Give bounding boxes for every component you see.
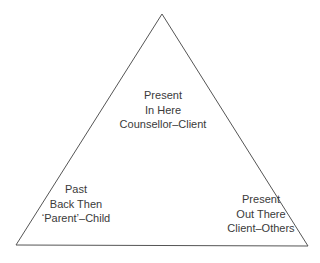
apex-corner-label: Present In Here Counsellor–Client [100, 88, 226, 132]
bottom-right-corner-label: Present Out There Client–Others [216, 192, 306, 236]
bottom-right-line-2: Out There [216, 207, 306, 222]
bottom-left-line-1: Past [36, 182, 116, 197]
apex-line-2: In Here [100, 103, 226, 118]
bottom-left-line-2: Back Then [36, 197, 116, 212]
apex-line-1: Present [100, 88, 226, 103]
bottom-right-line-3: Client–Others [216, 221, 306, 236]
apex-line-3: Counsellor–Client [100, 117, 226, 132]
bottom-left-line-3: ‘Parent’–Child [36, 211, 116, 226]
bottom-right-line-1: Present [216, 192, 306, 207]
bottom-left-corner-label: Past Back Then ‘Parent’–Child [36, 182, 116, 226]
